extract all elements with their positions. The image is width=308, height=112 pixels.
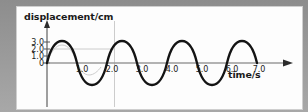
x-tick-label-1: 1.0: [72, 65, 92, 74]
figure-background: 3.0 2.0 1.0 0 1.0 2.0 3.0 4.0 5.0 6.0 7.…: [0, 0, 308, 112]
y-axis-title: displacement/cm: [24, 11, 113, 22]
x-tick-label-3: 3.0: [132, 65, 152, 74]
x-tick-label-2: 2.0: [102, 65, 122, 74]
x-tick-label-4: 4.0: [162, 65, 182, 74]
x-tick-label-5: 5.0: [192, 65, 212, 74]
chart-paper: 3.0 2.0 1.0 0 1.0 2.0 3.0 4.0 5.0 6.0 7.…: [17, 7, 302, 109]
x-axis-title: time/s: [228, 69, 261, 80]
x-tick-labels: 1.0 2.0 3.0 4.0 5.0 6.0 7.0: [17, 7, 302, 109]
